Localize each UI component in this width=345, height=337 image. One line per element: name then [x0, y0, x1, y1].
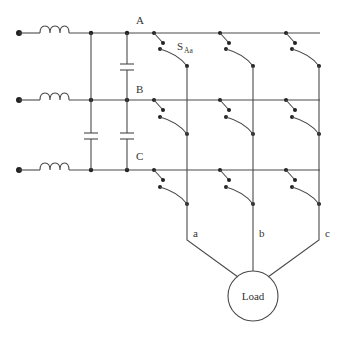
switch-ca: [152, 168, 189, 206]
node-label-b: B: [136, 83, 143, 95]
switch-cb: [218, 168, 255, 206]
output-label-a: a: [193, 227, 198, 239]
node-label-c: C: [136, 150, 143, 162]
inductor-a: [40, 26, 69, 33]
inductor-c: [40, 163, 69, 170]
output-bus-c: [268, 66, 319, 277]
load-label: Load: [242, 290, 265, 302]
switch-cc: [284, 168, 321, 206]
switch-bc: [284, 98, 321, 136]
output-label-b: b: [259, 227, 265, 239]
capacitor-ac: [84, 33, 98, 170]
input-row-c: [16, 163, 320, 173]
node-label-a: A: [136, 14, 144, 26]
capacitor-bc: [120, 100, 134, 170]
output-label-c: c: [325, 227, 330, 239]
switch-label-subscript: Aa: [184, 46, 193, 55]
input-row-a: [16, 26, 320, 36]
switch-matrix: [152, 31, 321, 206]
switch-ac: [284, 31, 321, 68]
switch-ba: [152, 98, 189, 136]
capacitor-ab: [120, 33, 134, 100]
output-bus-a: [187, 66, 238, 277]
switch-bb: [218, 98, 255, 136]
switch-label: S: [177, 40, 183, 52]
load: Load: [228, 271, 278, 321]
input-row-b: [16, 93, 320, 103]
switch-ab: [218, 31, 255, 68]
inductor-b: [40, 93, 69, 100]
matrix-converter-diagram: A B C S Aa: [0, 0, 345, 337]
